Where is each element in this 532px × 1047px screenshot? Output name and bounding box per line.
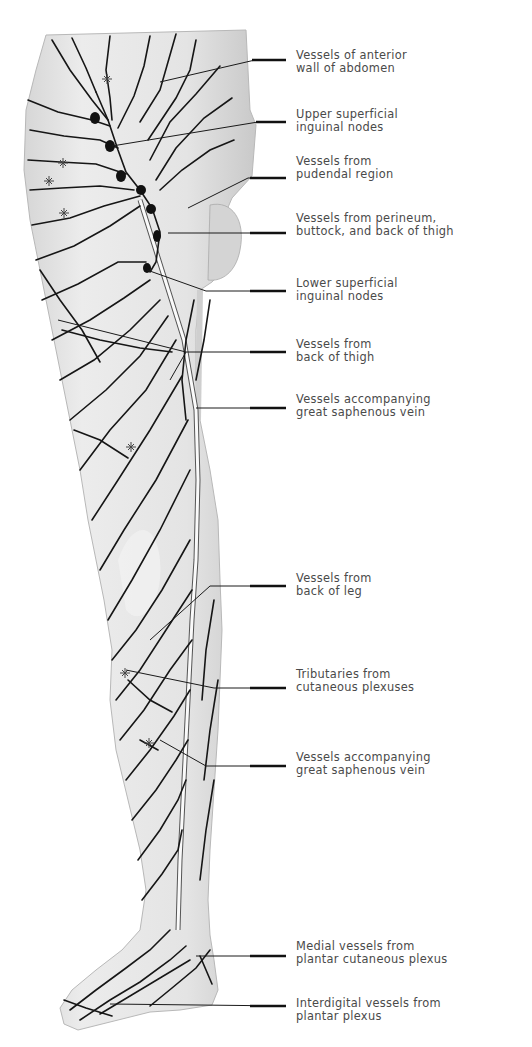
label-great-saphenous-vessels-lower: Vessels accompanying great saphenous vei… <box>296 751 532 777</box>
label-line: cutaneous plexuses <box>296 681 532 694</box>
label-line: plantar plexus <box>296 1010 532 1023</box>
label-line: buttock, and back of thigh <box>296 225 532 238</box>
label-cutaneous-plexus-tributaries: Tributaries from cutaneous plexuses <box>296 668 532 694</box>
label-back-of-thigh-vessels: Vessels from back of thigh <box>296 338 532 364</box>
label-pudendal-region-vessels: Vessels from pudendal region <box>296 155 532 181</box>
limb-silhouette <box>24 30 256 1030</box>
label-line: great saphenous vein <box>296 406 532 419</box>
leader-line-ticks <box>250 60 286 1006</box>
label-back-of-leg-vessels: Vessels from back of leg <box>296 572 532 598</box>
label-line: back of leg <box>296 585 532 598</box>
label-line: inguinal nodes <box>296 121 532 134</box>
label-line: back of thigh <box>296 351 532 364</box>
label-line: great saphenous vein <box>296 764 532 777</box>
label-line: pudendal region <box>296 168 532 181</box>
label-interdigital-vessels: Interdigital vessels from plantar plexus <box>296 997 532 1023</box>
label-great-saphenous-vessels-upper: Vessels accompanying great saphenous vei… <box>296 393 532 419</box>
label-anterior-abdomen-vessels: Vessels of anterior wall of abdomen <box>296 49 532 75</box>
label-plantar-cutaneous-medial-vessels: Medial vessels from plantar cutaneous pl… <box>296 940 532 966</box>
label-line: wall of abdomen <box>296 62 532 75</box>
label-lower-superficial-inguinal-nodes: Lower superficial inguinal nodes <box>296 277 532 303</box>
label-line: plantar cutaneous plexus <box>296 953 532 966</box>
label-line: inguinal nodes <box>296 290 532 303</box>
label-upper-superficial-inguinal-nodes: Upper superficial inguinal nodes <box>296 108 532 134</box>
label-perineum-buttock-vessels: Vessels from perineum, buttock, and back… <box>296 212 532 238</box>
